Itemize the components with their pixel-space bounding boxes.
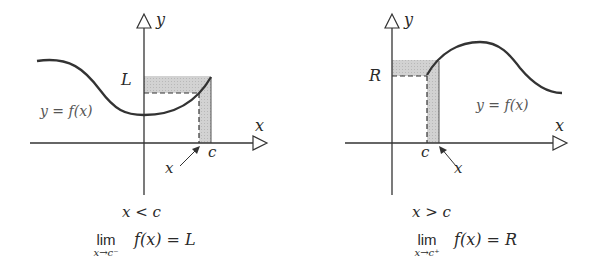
right-lim-word: lim (404, 232, 450, 247)
left-point-c-label: c (208, 143, 216, 161)
right-limit-expression: f(x) = R (454, 230, 517, 249)
left-curve-label: y = f(x) (40, 103, 93, 119)
right-limit-operator: lim x→c⁺ (404, 232, 450, 258)
right-x-axis-arrowhead (553, 136, 567, 150)
left-limit-operator: lim x→c⁻ (84, 232, 128, 258)
left-y-axis-label: y (156, 10, 165, 29)
left-limit-value-label: L (121, 70, 132, 89)
right-y-axis-arrowhead (385, 14, 399, 28)
left-x-axis-arrowhead (253, 136, 267, 150)
left-condition: x < c (122, 203, 161, 221)
left-x-axis-label: x (255, 116, 264, 135)
right-point-c-label: c (421, 143, 429, 161)
left-limit-expression: f(x) = L (134, 230, 196, 249)
right-condition: x > c (412, 203, 451, 221)
right-curve (427, 42, 562, 93)
right-y-axis-label: y (404, 10, 413, 29)
right-shaded-band-vertical (427, 76, 439, 143)
left-shaded-band-vertical (199, 93, 211, 143)
right-lim-subscript: x→c⁺ (404, 247, 450, 258)
right-curve-label: y = f(x) (476, 97, 529, 113)
right-x-axis-label: x (555, 116, 564, 135)
right-limit-value-label: R (369, 66, 381, 85)
left-lim-word: lim (84, 232, 128, 247)
left-y-axis-arrowhead (137, 14, 151, 28)
left-lim-subscript: x→c⁻ (84, 247, 128, 258)
right-arrow-x-label: x (454, 159, 462, 177)
left-arrow-x-label: x (165, 159, 173, 177)
